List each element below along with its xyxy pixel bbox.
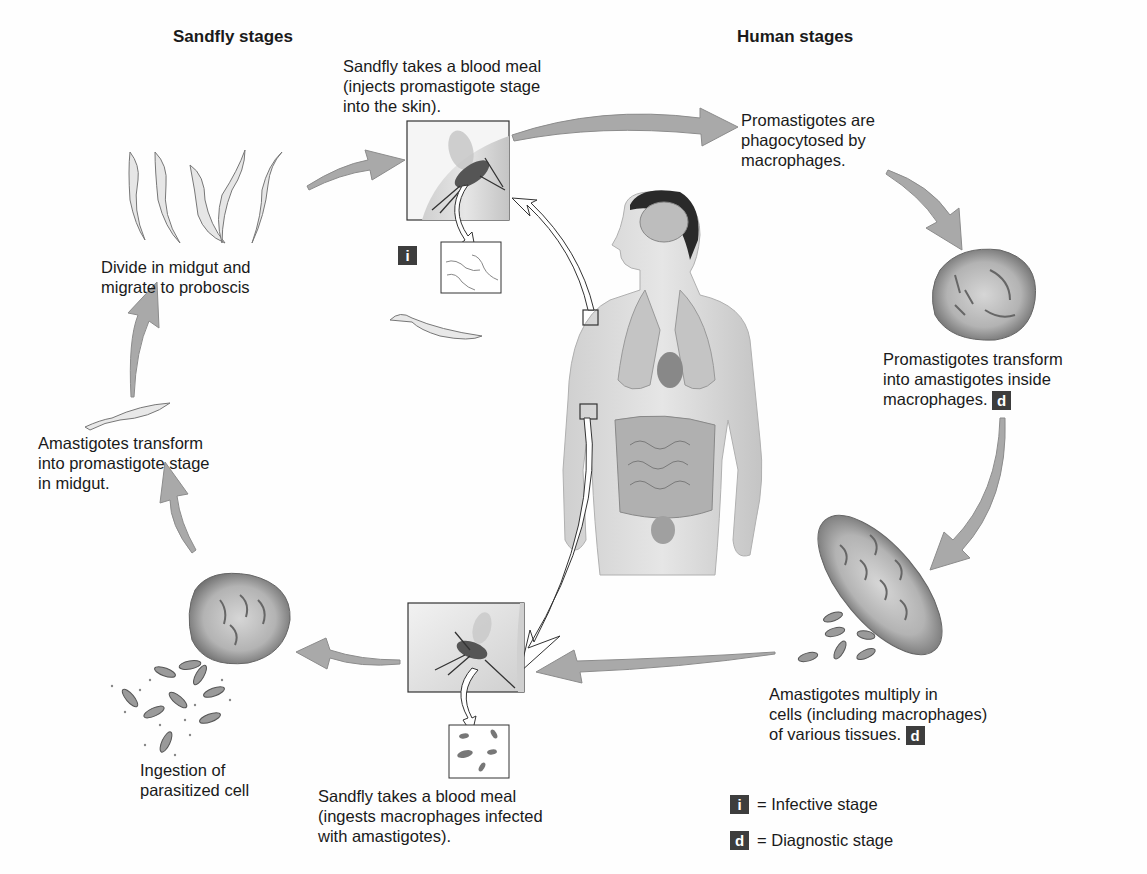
legend-diagnostic: d = Diagnostic stage <box>730 828 893 852</box>
heading-sandfly-stages: Sandfly stages <box>173 27 293 47</box>
heading-human-stages: Human stages <box>737 27 853 47</box>
step-transform-promastigote: Amastigotes transform into promastigote … <box>38 433 210 493</box>
macrophage-elongated <box>796 495 963 674</box>
macrophage-round <box>932 249 1035 340</box>
diagnostic-badge-icon: d <box>730 831 749 850</box>
step-ingestion: Ingestion of parasitized cell <box>140 760 249 800</box>
infective-stage-badge: i <box>398 246 417 265</box>
human-figure <box>563 190 762 575</box>
step-multiply: Amastigotes multiply in cells (including… <box>769 684 987 745</box>
dividing-promastigotes <box>129 150 282 243</box>
human-to-inject-arrow <box>512 198 594 310</box>
promastigote-inset-box <box>441 242 501 293</box>
diagnostic-stage-badge: d <box>906 726 925 745</box>
step-divide: Divide in midgut and migrate to probosci… <box>101 257 251 297</box>
step-phagocytosed: Promastigotes are phagocytosed by macrop… <box>741 110 875 170</box>
arrow-to-phagocytosed <box>512 108 738 146</box>
parasitized-cell <box>111 573 290 756</box>
infective-badge-icon: i <box>730 795 749 814</box>
step-blood-meal-ingest: Sandfly takes a blood meal (ingests macr… <box>318 786 543 846</box>
legend: i = Infective stage d = Diagnostic stage <box>730 792 893 852</box>
step-transform-amastigotes: Promastigotes transform into amastigotes… <box>883 349 1063 410</box>
promastigote-midgut <box>85 403 170 430</box>
step-blood-meal-inject: Sandfly takes a blood meal (injects prom… <box>343 56 541 116</box>
arrow-to-divide <box>128 282 159 397</box>
diagnostic-stage-badge: d <box>992 391 1011 410</box>
arrow-to-macrophage <box>886 170 962 250</box>
arrow-to-multiply <box>930 418 1005 570</box>
legend-infective: i = Infective stage <box>730 792 893 816</box>
arrow-to-ingestion <box>296 638 400 669</box>
arrow-to-ingest-fly <box>536 650 775 683</box>
arrow-to-inject-fly <box>307 150 405 190</box>
promastigote-free <box>390 314 482 339</box>
